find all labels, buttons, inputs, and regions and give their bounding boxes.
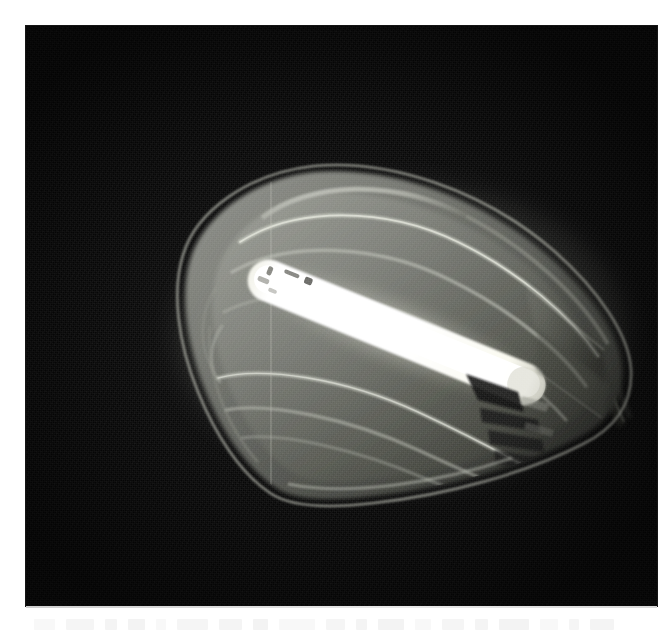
bleed-text-block (378, 619, 405, 630)
bleed-text-block (105, 619, 117, 630)
bleed-text-block (253, 619, 268, 630)
bleed-text-block (442, 619, 464, 630)
bleed-text-block (326, 619, 344, 630)
bleed-text-block (128, 619, 145, 630)
scan-sheet (0, 0, 668, 644)
bleed-text-block (177, 619, 209, 630)
street-lamp-luminaire (26, 26, 657, 606)
bleed-text-line (34, 612, 614, 636)
bleed-text-block (279, 619, 316, 630)
bleed-text-block (475, 619, 488, 630)
bleed-text-block (590, 619, 614, 630)
bleed-text-block (415, 619, 431, 630)
bleed-text-block (356, 619, 367, 630)
scan-bleed-text-artifact (34, 612, 614, 636)
lamp-illustration (26, 26, 657, 606)
bleed-text-block (156, 619, 166, 630)
bleed-text-block (540, 619, 558, 630)
bleed-text-block (34, 619, 55, 630)
photograph (26, 26, 657, 606)
bleed-text-block (66, 619, 94, 630)
bleed-text-block (499, 619, 528, 630)
bleed-text-block (219, 619, 242, 630)
bleed-text-block (569, 619, 579, 630)
scan-edge-rule (26, 606, 657, 608)
